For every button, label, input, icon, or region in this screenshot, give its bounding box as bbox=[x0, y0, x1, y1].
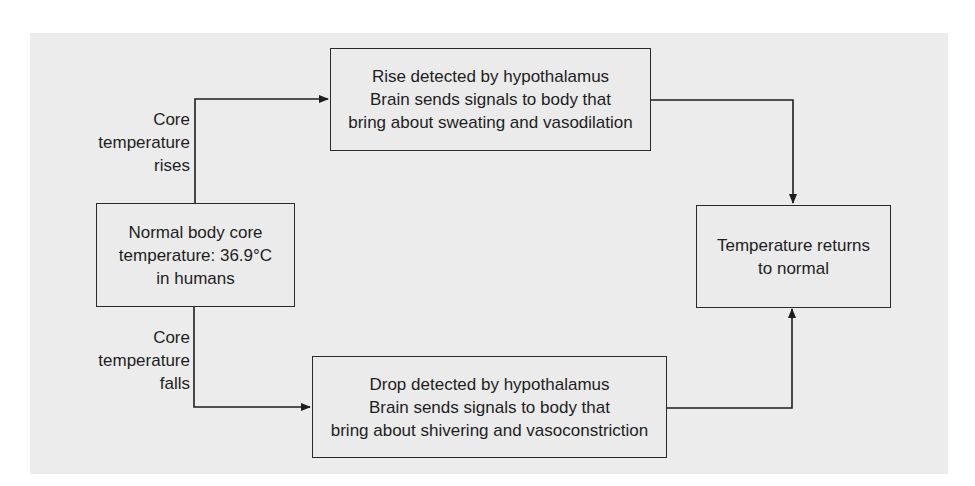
node-temperature-returns: Temperature returns to normal bbox=[696, 205, 891, 308]
node-text: in humans bbox=[119, 267, 272, 290]
edge-label-text: falls bbox=[80, 372, 190, 395]
node-text: temperature: 36.9°C bbox=[119, 244, 272, 267]
edge-label-text: rises bbox=[80, 154, 190, 177]
node-text: Brain sends signals to body that bbox=[348, 88, 632, 111]
edge-label-text: Core bbox=[80, 326, 190, 349]
node-text: bring about sweating and vasodilation bbox=[348, 111, 632, 134]
arrow-drop-to-returns bbox=[666, 309, 792, 408]
edge-label-rises: Core temperature rises bbox=[80, 108, 190, 177]
arrow-normal-to-drop bbox=[194, 306, 310, 407]
node-drop-detected: Drop detected by hypothalamus Brain send… bbox=[312, 356, 667, 458]
node-text: Temperature returns bbox=[717, 234, 870, 257]
node-text: Brain sends signals to body that bbox=[331, 396, 649, 419]
arrow-rise-to-returns bbox=[650, 100, 793, 203]
node-text: to normal bbox=[717, 257, 870, 280]
node-normal-temperature: Normal body core temperature: 36.9°C in … bbox=[96, 203, 295, 307]
node-text: Normal body core bbox=[119, 221, 272, 244]
node-rise-detected: Rise detected by hypothalamus Brain send… bbox=[330, 48, 651, 151]
edge-label-falls: Core temperature falls bbox=[80, 326, 190, 395]
edge-label-text: Core bbox=[80, 108, 190, 131]
node-text: Drop detected by hypothalamus bbox=[331, 373, 649, 396]
node-text: bring about shivering and vasoconstricti… bbox=[331, 419, 649, 442]
edge-label-text: temperature bbox=[80, 349, 190, 372]
edge-label-text: temperature bbox=[80, 131, 190, 154]
arrow-normal-to-rise bbox=[195, 99, 328, 204]
node-text: Rise detected by hypothalamus bbox=[348, 65, 632, 88]
